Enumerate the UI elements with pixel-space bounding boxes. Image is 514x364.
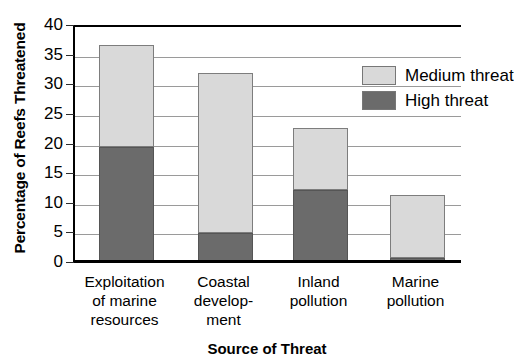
bar-1-high-threat-segment [99, 147, 154, 262]
y-tick-label-30: 30 [29, 75, 63, 92]
y-tick-label-25: 25 [29, 105, 63, 122]
bar-2-high-threat-segment [198, 233, 253, 262]
y-axis-tick-labels: 0510152025303540 [29, 0, 63, 364]
x-tick-label-3: Inland pollution [265, 272, 373, 310]
bar-3-high-threat-segment [293, 190, 348, 262]
legend-swatch-high-threat [362, 91, 396, 110]
x-tick-label-1: Exploitation of marine resources [71, 272, 179, 329]
y-axis-title: Percentage of Reefs Threatened [11, 13, 29, 263]
bar-4-medium-threat-segment [390, 195, 445, 258]
y-tick-label-10: 10 [29, 194, 63, 211]
y-tick-mark-40 [66, 25, 74, 26]
bar-4 [390, 195, 445, 262]
y-tick-mark-35 [66, 55, 74, 56]
bar-2-medium-threat-segment [198, 73, 253, 233]
bar-3 [293, 128, 348, 262]
bar-1 [99, 45, 154, 262]
legend-label-medium-threat: Medium threat [405, 66, 514, 86]
y-tick-label-15: 15 [29, 164, 63, 181]
y-tick-label-35: 35 [29, 46, 63, 63]
plot-area: Medium threat High threat [73, 25, 461, 262]
legend-item-high-threat: High threat [362, 88, 514, 113]
x-axis-title: Source of Threat [73, 340, 461, 357]
y-tick-mark-30 [66, 84, 74, 85]
y-tick-label-0: 0 [29, 253, 63, 270]
bar-1-medium-threat-segment [99, 45, 154, 148]
bar-2 [198, 73, 253, 262]
y-tick-mark-20 [66, 144, 74, 145]
y-tick-label-5: 5 [29, 223, 63, 240]
x-tick-label-4: Marine pollution [362, 272, 470, 310]
bar-3-medium-threat-segment [293, 128, 348, 190]
y-tick-mark-15 [66, 173, 74, 174]
chart-legend: Medium threat High threat [362, 63, 514, 113]
legend-item-medium-threat: Medium threat [362, 63, 514, 88]
y-tick-label-20: 20 [29, 135, 63, 152]
x-tick-label-2: Coastal develop- ment [170, 272, 278, 329]
y-tick-mark-0 [66, 262, 74, 263]
y-tick-label-40: 40 [29, 16, 63, 33]
legend-label-high-threat: High threat [405, 91, 488, 111]
y-tick-mark-10 [66, 203, 74, 204]
x-axis-line [73, 260, 461, 263]
y-tick-mark-25 [66, 114, 74, 115]
y-tick-mark-5 [66, 232, 74, 233]
legend-swatch-medium-threat [362, 66, 396, 85]
